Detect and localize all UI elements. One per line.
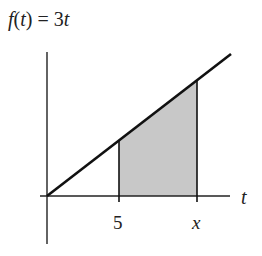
tick-label-5: 5 [113, 212, 123, 233]
shaded-area [119, 81, 197, 196]
area-diagram: f(t) = 3t t 5 x [0, 0, 262, 256]
x-axis-label: t [241, 186, 247, 208]
function-title: f(t) = 3t [8, 8, 70, 31]
tick-label-x: x [191, 212, 201, 233]
